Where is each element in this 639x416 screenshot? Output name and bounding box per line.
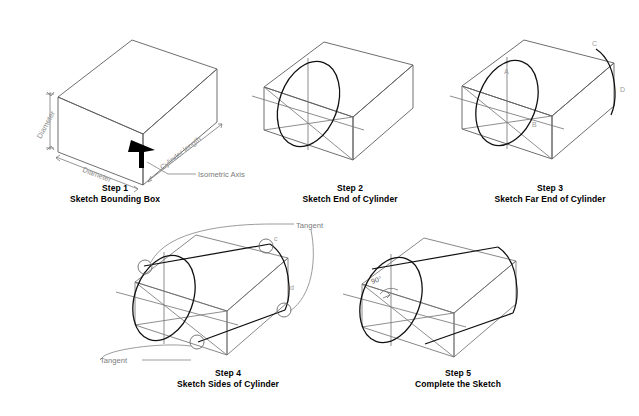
step-5-illustration: 90°	[340, 232, 555, 377]
point-a-label: A	[504, 68, 509, 75]
tangent-upper-label: Tangent	[296, 221, 324, 230]
point-d-label: D	[620, 86, 625, 93]
point-c-label: C	[592, 40, 597, 47]
step-5-number: Step 5	[338, 368, 578, 379]
point-d-label: d	[290, 284, 294, 291]
step-2-illustration	[248, 34, 443, 179]
diameter-vertical-label: Diameter	[35, 109, 57, 140]
step-4-label: Sketch Sides of Cylinder	[108, 379, 348, 390]
tangent-line-top	[144, 244, 270, 266]
bounding-box	[58, 40, 217, 185]
tangent-lower-label: Tangent	[100, 356, 128, 365]
construction-axes	[116, 252, 238, 355]
step-3-label: Sketch Far End of Cylinder	[430, 194, 639, 205]
step-4-number: Step 4	[108, 368, 348, 379]
tangent-point-marker-near-bottom	[190, 335, 204, 349]
step-4-illustration: c d Tangent Tangent	[98, 220, 333, 375]
construction-axes	[343, 254, 466, 357]
isometric-axis-label: Isometric Axis	[198, 170, 245, 179]
point-b-label: B	[532, 121, 537, 128]
step-5-label: Complete the Sketch	[338, 379, 578, 390]
step-5-caption: Step 5 Complete the Sketch	[338, 368, 578, 390]
step-4-caption: Step 4 Sketch Sides of Cylinder	[108, 368, 348, 390]
step-1-caption: Step 1 Sketch Bounding Box	[0, 183, 235, 205]
near-end-ellipse	[266, 53, 351, 156]
diameter-vertical-dimension: Diameter	[35, 92, 57, 150]
step-1-illustration: Diameter Diameter Cylinder length Isom	[10, 22, 235, 182]
tangent-right-leader	[290, 230, 313, 311]
step-1-number: Step 1	[0, 183, 235, 194]
tangent-line-bottom	[198, 310, 285, 342]
tangent-lower-leader: Tangent	[100, 345, 191, 365]
point-c-label: c	[274, 235, 278, 242]
cylinder-length-label: Cylinder length	[158, 134, 202, 171]
step-1-label: Sketch Bounding Box	[0, 194, 235, 205]
figure-canvas: Diameter Diameter Cylinder length Isom	[0, 0, 639, 416]
diameter-base-label: Diameter	[81, 165, 113, 184]
step-3-number: Step 3	[430, 183, 639, 194]
step-3-illustration: C D A B	[452, 30, 639, 180]
step-3-caption: Step 3 Sketch Far End of Cylinder	[430, 183, 639, 205]
tangent-line-bottom	[425, 313, 513, 344]
angle-90-annotation: 90°	[370, 275, 398, 298]
